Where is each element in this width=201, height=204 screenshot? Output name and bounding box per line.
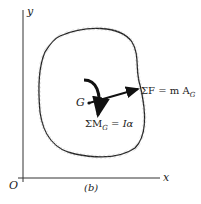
center-label: G [76,97,85,108]
figure-caption: (b) [84,183,98,193]
rigid-body-diagram [0,0,201,204]
y-axis-label: y [27,6,33,17]
force-equation: ΣF = m AG [141,86,195,99]
rigid-body-outline [39,28,145,157]
moment-equation: ΣMG = Iα [85,119,133,132]
x-axis-label: x [163,172,169,183]
force-equation-subscript: G [190,91,196,99]
center-point [87,101,90,104]
force-equation-text: ΣF = m A [141,85,190,96]
origin-label: O [9,180,18,191]
moment-equation-rhs: = Iα [108,118,133,129]
moment-equation-text: ΣM [85,118,102,129]
